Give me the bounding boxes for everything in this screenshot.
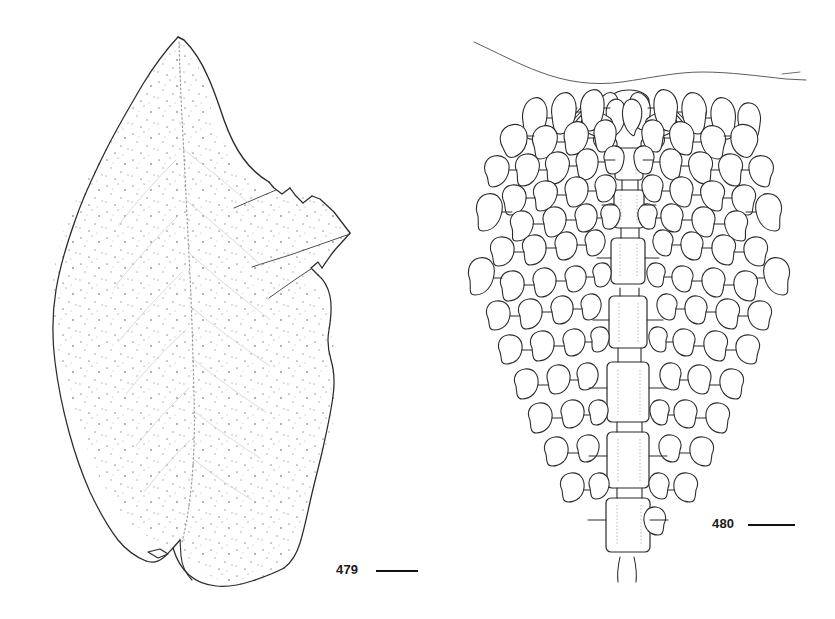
plate-artwork (0, 0, 835, 619)
leaf-margin-tooth-lower (311, 262, 322, 275)
costa-cell (607, 362, 649, 422)
scale-bar-480 (748, 524, 795, 526)
botanical-plate: 479 480 (0, 0, 835, 619)
leaf-lamina-stipple (40, 28, 360, 594)
costa-cell (606, 498, 650, 552)
lamina-cells-left (468, 90, 624, 502)
cell-margin-line-tick (782, 72, 800, 74)
costa-cell (607, 432, 649, 488)
figure-label-479: 479 (336, 562, 358, 577)
basal-tail-lines (618, 557, 637, 582)
costa-cell (609, 296, 647, 348)
scale-bar-479 (376, 570, 418, 572)
figure-480-cell-detail (468, 42, 806, 582)
figure-479-leaf (40, 28, 360, 594)
figure-label-480: 480 (712, 516, 734, 531)
costa-cell (611, 238, 645, 284)
cell-margin-line (474, 42, 806, 84)
